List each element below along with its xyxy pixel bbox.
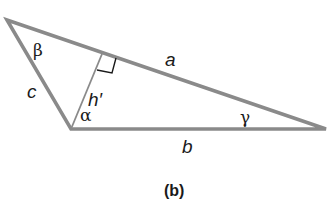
triangle-diagram [0,0,332,205]
figure-caption: (b) [164,183,184,199]
angle-beta-label: β [33,42,43,59]
side-a-label: a [165,50,176,69]
side-b-label: b [182,137,193,156]
angle-gamma-label: γ [240,109,250,126]
triangle-outline [7,20,326,129]
angle-alpha-label: α [80,107,91,124]
side-c-label: c [27,82,37,101]
